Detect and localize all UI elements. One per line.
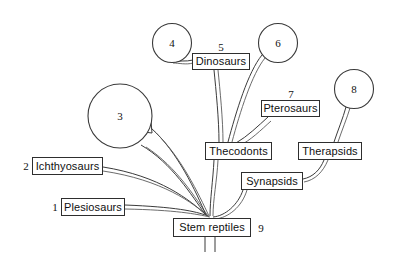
taxon-box-plesiosaurs[interactable]: Plesiosaurs [61, 198, 125, 216]
branch-therapsids-to-node-8 [334, 107, 350, 142]
taxon-label-stem-reptiles: Stem reptiles [179, 222, 245, 233]
ref-label-dinosaurs: 5 [214, 41, 228, 53]
taxon-label-plesiosaurs: Plesiosaurs [64, 202, 122, 213]
node-circle-8-label: 8 [347, 83, 361, 95]
ref-label-stem-reptiles: 9 [254, 222, 268, 234]
taxon-label-thecodonts: Thecodonts [209, 146, 267, 157]
taxon-box-thecodonts[interactable]: Thecodonts [205, 142, 272, 160]
branch-stem-to-thecodonts [210, 160, 218, 216]
taxon-box-dinosaurs[interactable]: Dinosaurs [192, 53, 250, 70]
taxon-label-therapsids: Therapsids [302, 146, 357, 157]
taxon-box-therapsids[interactable]: Therapsids [298, 142, 362, 160]
taxon-label-dinosaurs: Dinosaurs [196, 56, 246, 67]
phylogenetic-tree-diagram: 3 4 6 8 Ichthyosaurs 2 Plesiosaurs 1 Din… [0, 0, 394, 259]
node-circle-4-label: 4 [165, 37, 179, 49]
node-circle-6-label: 6 [271, 37, 285, 49]
taxon-box-synapsids[interactable]: Synapsids [241, 172, 303, 190]
taxon-label-synapsids: Synapsids [246, 176, 298, 187]
taxon-label-pterosaurs: Pterosaurs [263, 103, 317, 114]
taxon-box-ichthyosaurs[interactable]: Ichthyosaurs [32, 157, 103, 175]
branch-stem-to-synapsids [213, 190, 247, 219]
ref-label-ichthyosaurs: 2 [19, 160, 33, 172]
node-circle-3-label: 3 [113, 110, 127, 122]
branch-thecodonts-to-dinosaurs [214, 70, 223, 142]
taxon-label-ichthyosaurs: Ichthyosaurs [36, 161, 100, 172]
branch-synapsids-to-therapsids [303, 160, 328, 182]
taxon-box-stem-reptiles[interactable]: Stem reptiles [173, 218, 251, 237]
root-stem-group [205, 237, 215, 252]
taxon-box-pterosaurs[interactable]: Pterosaurs [261, 100, 320, 117]
ref-label-plesiosaurs: 1 [48, 201, 62, 213]
ref-label-pterosaurs: 7 [284, 88, 298, 100]
branch-stem-to-node-3-upper [151, 128, 209, 216]
